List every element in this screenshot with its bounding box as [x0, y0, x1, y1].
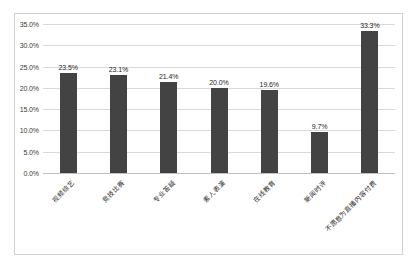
y-axis-tick-label: 25.0% [20, 63, 39, 70]
y-axis-tick-label: 20.0% [20, 84, 39, 91]
bar [211, 88, 228, 173]
y-axis-tick-label: 5.0% [23, 148, 39, 155]
bar-value-label: 9.7% [312, 123, 328, 130]
y-axis-tick-label: 15.0% [20, 106, 39, 113]
bar-value-label: 20.0% [209, 79, 228, 86]
bar [160, 82, 177, 173]
y-axis-tick-label: 10.0% [20, 127, 39, 134]
bar-value-label: 19.6% [260, 81, 279, 88]
plot-area: 0.0%5.0%10.0%15.0%20.0%25.0%30.0%35.0% 2… [43, 24, 395, 173]
bar [60, 73, 77, 173]
y-axis-tick-label: 30.0% [20, 42, 39, 49]
y-axis-tick-label: 0.0% [23, 170, 39, 177]
gridline [43, 67, 395, 68]
y-axis-tick-label: 35.0% [20, 21, 39, 28]
gridline [43, 173, 395, 174]
bar [110, 75, 127, 173]
bar [261, 90, 278, 173]
bar-value-label: 23.1% [109, 66, 128, 73]
gridline [43, 45, 395, 46]
bar [361, 31, 378, 173]
bar-value-label: 23.5% [58, 64, 77, 71]
bar-value-label: 21.4% [159, 73, 178, 80]
bar-chart: 0.0%5.0%10.0%15.0%20.0%25.0%30.0%35.0% 2… [0, 0, 417, 270]
bar-value-label: 33.3% [360, 22, 379, 29]
gridline [43, 24, 395, 25]
bar [311, 132, 328, 173]
